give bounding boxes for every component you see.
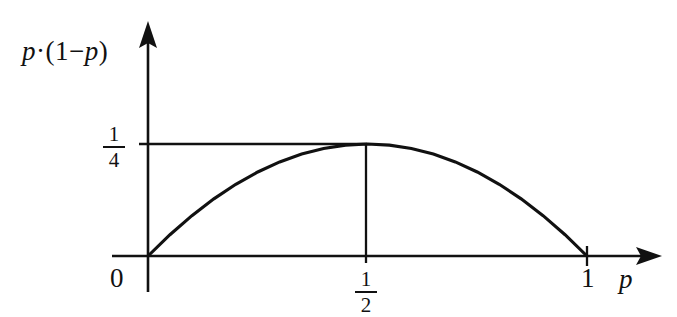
parabola-curve	[148, 144, 587, 256]
x-tick-label-zero: 0	[110, 265, 124, 292]
y-label-p1: p	[22, 36, 36, 66]
y-label-p2: p	[85, 36, 99, 66]
y-tick-label-one-quarter: 1 4	[103, 124, 125, 172]
x-tick-label-one: 1	[581, 265, 595, 292]
fraction-numerator: 1	[355, 269, 377, 291]
x-axis-label: p	[619, 266, 633, 293]
y-label-minus: −	[69, 36, 85, 66]
x-tick-label-one-half: 1 2	[355, 269, 377, 317]
fraction-denominator: 2	[355, 294, 377, 316]
y-label-dot: ·	[36, 36, 46, 66]
fraction-numerator: 1	[103, 124, 125, 146]
math-figure: p·(1−p) p 0 1 1 4 1 2	[0, 0, 677, 317]
y-label-close-paren: )	[99, 36, 109, 66]
y-label-one: 1	[55, 36, 69, 66]
fraction-denominator: 4	[103, 149, 125, 171]
y-axis-label: p·(1−p)	[22, 38, 108, 65]
y-label-open-paren: (	[46, 36, 56, 66]
